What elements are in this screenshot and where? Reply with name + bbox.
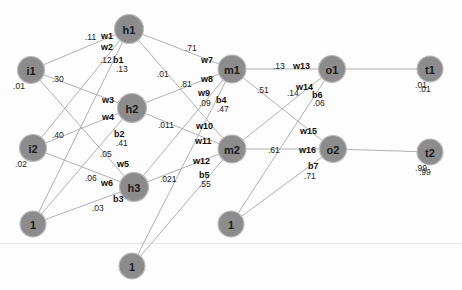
node-label-t1: t1 bbox=[425, 64, 435, 76]
weight-label-w13: w13 bbox=[293, 62, 310, 71]
weight-label-w9: w9 bbox=[198, 89, 210, 98]
node-t1[interactable]: t1 bbox=[417, 56, 443, 82]
value-label-t2-value-dup: .99 bbox=[419, 168, 431, 177]
value-label-w2-value: .12 bbox=[100, 56, 112, 65]
value-label-w9-value: .09 bbox=[199, 99, 211, 108]
node-m1[interactable]: m1 bbox=[218, 55, 246, 83]
node-label-h1: h1 bbox=[123, 24, 136, 36]
value-label-b3-value: .03 bbox=[92, 204, 104, 213]
nodes-layer: i1.01i2.021h1h2h31m1m21o1o2t1.01t2.99 bbox=[13, 15, 443, 280]
value-label-w14-value: .14 bbox=[287, 89, 299, 98]
node-label-o2: o2 bbox=[327, 144, 340, 156]
node-bias3[interactable]: 1 bbox=[119, 253, 145, 279]
weight-label-w4: w4 bbox=[102, 113, 114, 122]
node-h2[interactable]: h2 bbox=[118, 94, 147, 123]
node-o1[interactable]: o1 bbox=[319, 56, 346, 83]
node-label-bias1: 1 bbox=[30, 219, 36, 231]
weight-label-w11: w11 bbox=[195, 137, 212, 146]
value-label-w6-value: .06 bbox=[85, 174, 97, 183]
value-label-b1-value: .13 bbox=[116, 65, 128, 74]
edge-o2-t2 bbox=[345, 149, 418, 151]
value-label-b5-value: .55 bbox=[199, 180, 211, 189]
value-label-h3-m1-value: .021 bbox=[160, 175, 177, 184]
edge-bias3-m2 bbox=[140, 159, 224, 257]
node-label-o1: o1 bbox=[326, 64, 339, 76]
weight-label-b7: b7 bbox=[308, 162, 319, 171]
value-label-w4-value: .81 bbox=[180, 80, 192, 89]
node-h3[interactable]: h3 bbox=[120, 173, 149, 202]
value-label-w3-value: .01 bbox=[157, 70, 169, 79]
value-label-i1-w3-value: .30 bbox=[52, 75, 64, 84]
node-bias1[interactable]: 1 bbox=[20, 211, 46, 237]
node-i2[interactable]: i2 bbox=[20, 135, 47, 162]
weight-label-w3: w3 bbox=[102, 96, 114, 105]
node-i1[interactable]: i1 bbox=[18, 57, 45, 84]
node-label-t2: t2 bbox=[425, 147, 435, 159]
weight-label-w7: w7 bbox=[201, 56, 213, 65]
node-label-bias3: 1 bbox=[129, 261, 135, 273]
node-label-h2: h2 bbox=[126, 103, 139, 115]
weight-label-b3: b3 bbox=[113, 195, 124, 204]
value-label-t1-value-dup: .01 bbox=[419, 85, 431, 94]
value-label-w7-value: .71 bbox=[185, 44, 197, 53]
value-label-m2-o2-value: .61 bbox=[268, 146, 280, 155]
value-label-h2-m2-value: .011 bbox=[158, 121, 174, 130]
node-label-bias2: 1 bbox=[228, 219, 234, 231]
node-h1[interactable]: h1 bbox=[115, 15, 144, 44]
network-graph-svg: i1.01i2.021h1h2h31m1m21o1o2t1.01t2.99 bbox=[0, 0, 462, 290]
edge-bias1-h3 bbox=[44, 192, 121, 220]
node-bias2[interactable]: 1 bbox=[218, 211, 244, 237]
weight-label-w1: w1 bbox=[101, 32, 113, 41]
node-label-i2: i2 bbox=[28, 143, 37, 155]
weight-label-w8: w8 bbox=[201, 75, 213, 84]
value-label-b4-value: .47 bbox=[217, 105, 229, 114]
node-value-i1: .01 bbox=[13, 81, 25, 91]
value-label-m1-o2-value: .51 bbox=[257, 86, 269, 95]
weight-label-w15: w15 bbox=[300, 127, 317, 136]
node-t2[interactable]: t2 bbox=[417, 139, 443, 165]
edge-bias3-m1 bbox=[137, 81, 226, 256]
value-label-w5-value: .05 bbox=[100, 150, 112, 159]
weight-label-w16: w16 bbox=[299, 146, 316, 155]
value-label-w1-value: .11 bbox=[85, 33, 96, 42]
weight-label-w5: w5 bbox=[117, 160, 129, 169]
value-label-b7-value: .71 bbox=[304, 172, 316, 181]
node-label-m2: m2 bbox=[224, 144, 240, 156]
value-label-b6-value: .06 bbox=[313, 99, 325, 108]
weight-label-w10: w10 bbox=[196, 122, 213, 131]
value-label-b2-value: .41 bbox=[116, 139, 128, 148]
weight-label-w12: w12 bbox=[193, 157, 210, 166]
node-o2[interactable]: o2 bbox=[320, 136, 347, 163]
weight-label-w6: w6 bbox=[101, 179, 113, 188]
weight-label-w2: w2 bbox=[101, 43, 113, 52]
value-label-i2-value-b: .40 bbox=[52, 131, 64, 140]
node-m2[interactable]: m2 bbox=[218, 135, 246, 163]
node-label-h3: h3 bbox=[128, 182, 141, 194]
value-label-m1-o1-value: .13 bbox=[273, 62, 285, 71]
neural-network-diagram: i1.01i2.021h1h2h31m1m21o1o2t1.01t2.99 w1… bbox=[0, 0, 462, 290]
node-label-m1: m1 bbox=[224, 64, 240, 76]
node-label-i1: i1 bbox=[26, 65, 35, 77]
node-value-i2: .02 bbox=[15, 159, 27, 169]
